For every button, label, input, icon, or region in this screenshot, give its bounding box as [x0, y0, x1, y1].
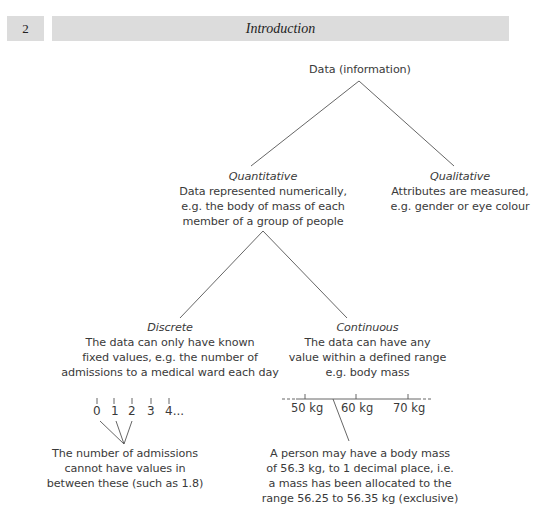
quantitative-line-1: Data represented numerically,: [173, 184, 353, 199]
continuous-value-60kg: 60 kg: [341, 401, 373, 415]
discrete-value-0: 0: [93, 404, 101, 418]
continuous-heading: Continuous: [280, 320, 455, 335]
node-continuous: Continuous The data can have any value w…: [280, 320, 455, 380]
continuous-note-line-4: range 56.25 to 56.35 kg (exclusive): [260, 491, 460, 506]
continuous-note: A person may have a body mass of 56.3 kg…: [260, 446, 460, 506]
node-data-information: Data (information): [290, 62, 430, 77]
qualitative-line-2: e.g. gender or eye colour: [385, 199, 535, 214]
node-discrete: Discrete The data can only have known fi…: [60, 320, 280, 380]
edge-quantitative-continuous: [263, 231, 347, 318]
discrete-heading: Discrete: [60, 320, 280, 335]
continuous-value-50kg: 50 kg: [291, 401, 323, 415]
pointer-2: [124, 421, 132, 444]
quantitative-line-2: e.g. the body of mass of each: [173, 199, 353, 214]
discrete-note-line-1: The number of admissions: [40, 446, 210, 461]
qualitative-line-1: Attributes are measured,: [385, 184, 535, 199]
quantitative-heading: Quantitative: [173, 169, 353, 184]
qualitative-heading: Qualitative: [385, 169, 535, 184]
continuous-note-line-1: A person may have a body mass: [260, 446, 460, 461]
discrete-value-4: 4...: [165, 404, 184, 418]
continuous-line-1: The data can have any: [280, 335, 455, 350]
continuous-note-line-3: a mass has been allocated to the: [260, 476, 460, 491]
discrete-line-1: The data can only have known: [60, 335, 280, 350]
continuous-line-2: value within a defined range: [280, 350, 455, 365]
discrete-note-line-3: between these (such as 1.8): [40, 476, 210, 491]
continuous-value-70kg: 70 kg: [393, 401, 425, 415]
discrete-line-3: admissions to a medical ward each day: [60, 365, 280, 380]
edge-quantitative-discrete: [180, 231, 263, 318]
quantitative-line-3: member of a group of people: [173, 214, 353, 229]
continuous-note-line-2: of 56.3 kg, to 1 decimal place, i.e.: [260, 461, 460, 476]
discrete-value-2: 2: [128, 404, 136, 418]
discrete-value-3: 3: [147, 404, 155, 418]
node-quantitative: Quantitative Data represented numericall…: [173, 169, 353, 229]
edge-root-quantitative: [251, 81, 359, 166]
discrete-value-1: 1: [111, 404, 119, 418]
node-qualitative: Qualitative Attributes are measured, e.g…: [385, 169, 535, 214]
discrete-note-line-2: cannot have values in: [40, 461, 210, 476]
edge-root-qualitative: [359, 81, 454, 166]
continuous-line-3: e.g. body mass: [280, 365, 455, 380]
discrete-note: The number of admissions cannot have val…: [40, 446, 210, 491]
discrete-line-2: fixed values, e.g. the number of: [60, 350, 280, 365]
root-label: Data (information): [290, 62, 430, 77]
